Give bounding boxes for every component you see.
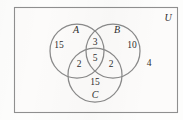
region-count-a-and-b-only: 3	[93, 37, 98, 47]
set-label-c: C	[92, 89, 99, 100]
region-count-a-and-b-and-c: 5	[93, 53, 98, 63]
region-count-a-only: 15	[54, 40, 64, 50]
region-count-b-and-c-only: 2	[109, 59, 114, 69]
venn-diagram-figure: U A B C 15 10 3 5 2 2 15 4	[0, 0, 183, 120]
region-count-a-and-c-only: 2	[77, 59, 82, 69]
set-label-a: A	[72, 24, 80, 35]
region-count-b-only: 10	[127, 40, 137, 50]
set-label-b: B	[114, 24, 120, 35]
venn-diagram-canvas: U A B C 15 10 3 5 2 2 15 4	[0, 0, 183, 120]
region-count-c-only: 15	[90, 77, 100, 87]
region-count-outside-all: 4	[147, 58, 152, 68]
universal-set-label: U	[164, 12, 172, 23]
